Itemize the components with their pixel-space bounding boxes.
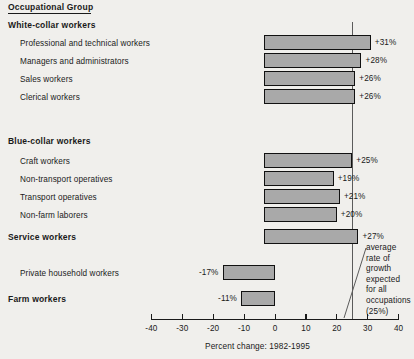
annotation-line: (25%) [366,307,411,318]
annotation-text: averagerate ofgrowthexpectedfor alloccup… [366,243,411,317]
annotation-line: occupations [366,296,411,307]
annotation-line: growth [366,264,411,275]
annotation-line: rate of [366,254,411,265]
chart-page: Occupational Group White-collar workers … [0,0,414,359]
annotation-line: average [366,243,411,254]
annotation-leader-line [0,0,414,359]
annotation-line: for all [366,285,411,296]
annotation-line: expected [366,275,411,286]
